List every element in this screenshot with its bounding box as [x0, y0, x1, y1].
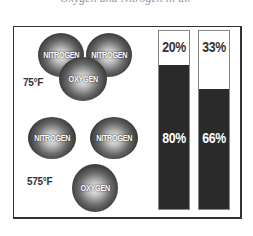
molecule-label: NITROGEN — [34, 133, 70, 143]
nitrogen-percent: 80% — [162, 129, 187, 146]
nitrogen-fill — [199, 89, 229, 209]
caption: Oxygen and Nitrogen in air — [60, 0, 192, 6]
temperature-label: 75°F — [23, 77, 43, 88]
temperature-label: 575°F — [27, 176, 52, 187]
oxygen-molecule: OXYGEN — [72, 164, 118, 212]
oxygen-percent: 20% — [162, 38, 187, 55]
oxygen-molecule: OXYGEN — [59, 57, 107, 101]
nitrogen-molecule: NITROGEN — [28, 117, 76, 159]
nitrogen-percent: 66% — [202, 129, 227, 146]
molecule-label: OXYGEN — [68, 74, 97, 84]
molecule-label: NITROGEN — [96, 133, 132, 143]
bar-575f: 33% 66% — [198, 30, 230, 210]
oxygen-percent: 33% — [202, 38, 227, 55]
nitrogen-molecule: NITROGEN — [90, 117, 138, 159]
molecule-label: OXYGEN — [80, 183, 109, 193]
bar-75f: 20% 80% — [158, 30, 190, 210]
molecule-label: NITROGEN — [91, 50, 127, 60]
